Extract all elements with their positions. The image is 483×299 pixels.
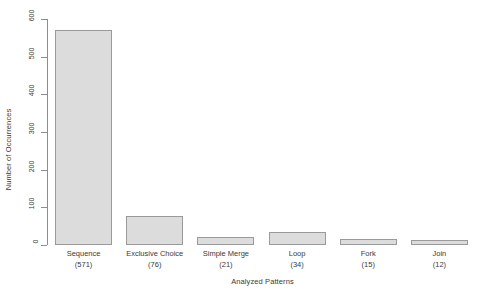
y-axis-tick (41, 57, 47, 58)
y-axis-tick-label: 0 (0, 238, 38, 245)
y-axis-tick-label: 100 (0, 200, 38, 207)
bar (269, 232, 326, 245)
x-axis-category-label: Loop(34) (262, 249, 333, 270)
category-name: Exclusive Choice (119, 249, 190, 260)
category-count: (21) (190, 260, 261, 271)
y-axis-tick (41, 207, 47, 208)
bar (126, 216, 183, 245)
y-axis-tick (41, 170, 47, 171)
y-axis-tick-label: 500 (0, 50, 38, 57)
category-count: (34) (262, 260, 333, 271)
category-name: Join (404, 249, 475, 260)
y-axis-tick (41, 132, 47, 133)
category-name: Sequence (48, 249, 119, 260)
bar (197, 237, 254, 245)
y-axis-tick-label: 300 (0, 125, 38, 132)
y-axis-tick (41, 94, 47, 95)
y-axis-tick-label: 600 (0, 12, 38, 19)
category-name: Loop (262, 249, 333, 260)
x-axis-title: Analyzed Patterns (50, 277, 475, 286)
category-count: (15) (333, 260, 404, 271)
bar (55, 30, 112, 245)
y-axis-tick-label: 400 (0, 87, 38, 94)
x-axis-category-label: Sequence(571) (48, 249, 119, 270)
category-name: Fork (333, 249, 404, 260)
bar (411, 240, 468, 245)
x-axis-category-label: Join(12) (404, 249, 475, 270)
plot-area (48, 14, 475, 245)
y-axis-tick-label: 200 (0, 163, 38, 170)
category-name: Simple Merge (190, 249, 261, 260)
category-count: (12) (404, 260, 475, 271)
y-axis-tick (41, 19, 47, 20)
bar-chart: Number of Occurrences 010020030040050060… (0, 0, 483, 299)
y-axis-title: Number of Occurrences (0, 0, 16, 299)
bar (340, 239, 397, 245)
category-count: (76) (119, 260, 190, 271)
x-axis-category-label: Simple Merge(21) (190, 249, 261, 270)
x-axis-category-label: Fork(15) (333, 249, 404, 270)
x-axis-category-label: Exclusive Choice(76) (119, 249, 190, 270)
category-count: (571) (48, 260, 119, 271)
y-axis-tick (41, 245, 47, 246)
